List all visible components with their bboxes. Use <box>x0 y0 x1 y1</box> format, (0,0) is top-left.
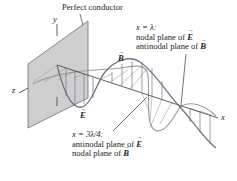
annotation-lambda-line2: antinodal plane of B <box>136 42 206 52</box>
z-axis <box>19 88 28 93</box>
y-axis-label: y <box>53 15 57 25</box>
three-quarter-leader-line <box>113 97 147 131</box>
e-field-label: E <box>80 111 86 121</box>
title-leader-line <box>80 14 83 25</box>
lambda-leader-line <box>181 54 186 105</box>
z-axis-label: z <box>12 86 15 96</box>
b-field-label: B <box>118 54 124 64</box>
x-axis-label: x <box>221 113 225 123</box>
annotation-x-three-quarter-lambda: x = 3λ/4: antinodal plane of E nodal pla… <box>72 130 142 159</box>
annotation-three-quarter-line2: nodal plane of B <box>72 149 142 159</box>
annotation-x-lambda: x = λ: nodal plane of E antinodal plane … <box>136 23 206 52</box>
perfect-conductor-label: Perfect conductor <box>62 3 123 13</box>
